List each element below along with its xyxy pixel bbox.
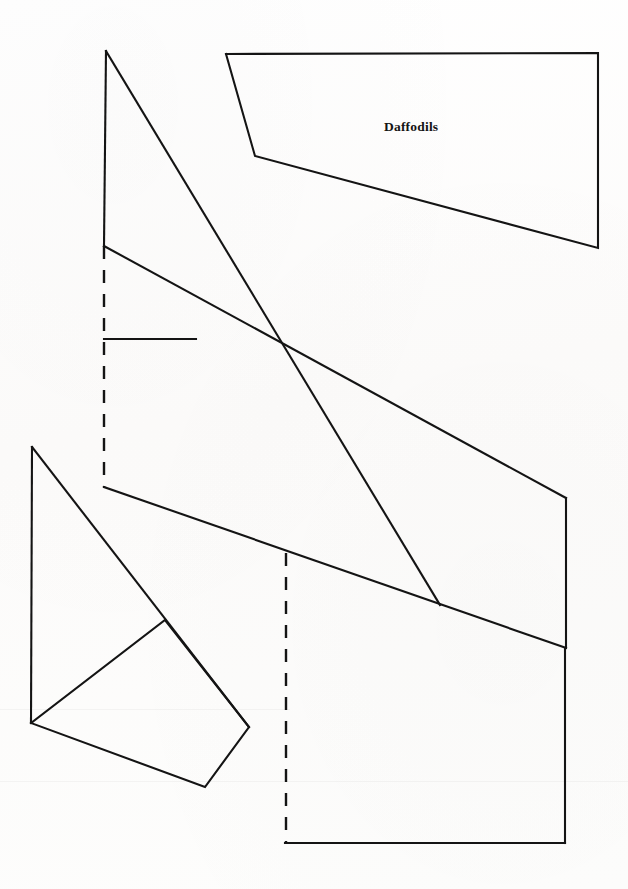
dashed-fold-lines-group: [104, 246, 286, 843]
mid-slope-edge: [104, 487, 566, 648]
upper-right-panel-outline: [226, 53, 598, 248]
upper-inner-diagonal: [104, 246, 566, 498]
solid-lines-group: [31, 51, 598, 843]
lower-left-quad-outline: [31, 620, 249, 787]
lower-left-vertical-edge: [31, 447, 32, 723]
top-left-vertical-edge: [104, 51, 106, 246]
pattern-drawing: [0, 0, 628, 889]
daffodils-label: Daffodils: [384, 119, 438, 135]
pattern-page: Daffodils: [0, 0, 628, 889]
